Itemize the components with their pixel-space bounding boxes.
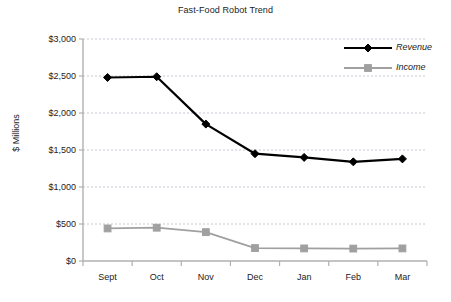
- legend-label-income: Income: [396, 62, 426, 72]
- data-point-marker-square: [365, 65, 372, 72]
- data-point-marker-square: [153, 224, 160, 231]
- legend: [344, 44, 392, 71]
- plot-area: [0, 0, 451, 302]
- data-series-layer: [104, 73, 407, 252]
- gridlines: [83, 39, 427, 224]
- data-point-marker-square: [350, 245, 357, 252]
- data-point-marker-square: [104, 225, 111, 232]
- x-axis-ticks: [83, 261, 427, 266]
- data-point-marker-diamond: [349, 158, 357, 166]
- legend-label-revenue: Revenue: [396, 42, 432, 52]
- data-point-marker-diamond: [104, 73, 112, 81]
- data-point-marker-square: [399, 245, 406, 252]
- data-point-marker-diamond: [364, 44, 372, 52]
- chart-container: Fast-Food Robot Trend $ Millions $0$500$…: [0, 0, 451, 302]
- series-income: [104, 224, 406, 252]
- legend-item-income: [344, 65, 392, 72]
- data-point-marker-diamond: [300, 153, 308, 161]
- data-point-marker-square: [252, 245, 259, 252]
- series-revenue: [104, 73, 407, 166]
- data-point-marker-diamond: [398, 155, 406, 163]
- data-point-marker-square: [301, 245, 308, 252]
- legend-item-revenue: [344, 44, 392, 52]
- data-point-marker-square: [202, 229, 209, 236]
